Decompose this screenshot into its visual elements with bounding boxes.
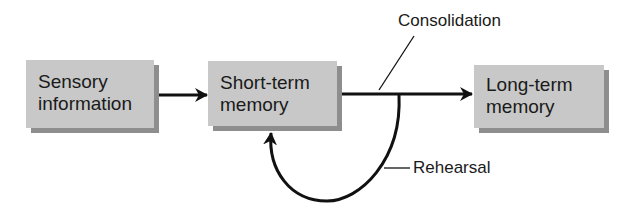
node-label-line2: memory xyxy=(486,96,604,118)
node-label-line1: Short-term xyxy=(220,72,337,94)
node-label-line1: Sensory xyxy=(38,71,154,93)
consolidation-label: Consolidation xyxy=(398,11,501,31)
consolidation-leader-line xyxy=(379,36,414,90)
rehearsal-label: Rehearsal xyxy=(413,158,491,178)
node-label-line2: information xyxy=(38,93,154,115)
node-long-term-memory: Long-term memory xyxy=(474,65,604,128)
node-short-term-memory: Short-term memory xyxy=(208,61,337,126)
node-sensory-information: Sensory information xyxy=(26,60,154,128)
node-label-line1: Long-term xyxy=(486,74,604,96)
node-label-line2: memory xyxy=(220,94,337,116)
